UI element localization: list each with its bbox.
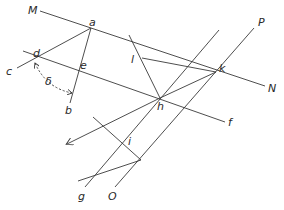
line-OP — [115, 28, 254, 187]
label-O: O — [108, 190, 117, 203]
label-k: k — [219, 62, 226, 75]
label-a: a — [89, 16, 96, 29]
label-h: h — [157, 100, 164, 113]
label-l: l — [131, 53, 134, 66]
line-lk — [142, 58, 216, 72]
label-M: M — [28, 4, 38, 17]
geometric-diagram: M N P O a b c d e f g h i k l δ — [0, 0, 284, 210]
line-hk — [160, 72, 216, 98]
delta-dimension-arc — [35, 63, 72, 93]
label-i: i — [128, 135, 131, 148]
label-P: P — [258, 16, 265, 29]
label-e: e — [80, 59, 87, 72]
label-f: f — [228, 116, 234, 129]
line-g — [85, 30, 219, 187]
line-def — [23, 51, 225, 122]
line-i — [93, 117, 141, 160]
label-b: b — [65, 104, 72, 117]
arrow-from-h — [67, 98, 160, 144]
label-N: N — [268, 82, 276, 95]
label-g: g — [78, 190, 85, 203]
line-lh — [129, 35, 160, 98]
label-d: d — [33, 47, 41, 60]
line-MN — [40, 11, 265, 86]
label-c: c — [6, 65, 12, 78]
label-delta: δ — [45, 75, 52, 88]
line-bottom — [78, 160, 141, 181]
